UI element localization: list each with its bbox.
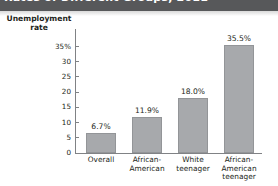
y-axis-title-line-2: rate xyxy=(6,23,72,32)
y-axis-title: Unemployment rate xyxy=(6,14,72,32)
y-axis-title-line-1: Unemployment xyxy=(6,14,72,23)
y-axis-tick-label-text: 20 xyxy=(44,88,71,95)
y-axis-tick-label-text: 10 xyxy=(44,119,71,126)
y-axis-tick xyxy=(75,76,79,77)
bar[interactable] xyxy=(86,133,116,153)
y-axis-tick-label-text: 15 xyxy=(44,103,71,110)
y-axis-tick-label: 15 xyxy=(44,103,71,111)
chart-title-text: Rates of Different Groups, 2011 xyxy=(4,0,208,4)
y-axis-tick-label: 0 xyxy=(44,149,71,157)
y-axis-tick-label: 10 xyxy=(44,119,71,127)
y-axis-tick-label: 25 xyxy=(44,73,71,81)
chart-title-banner: Rates of Different Groups, 2011 xyxy=(0,0,278,11)
bar-value-label: 18.0% xyxy=(164,88,222,96)
y-axis-tick-label-text: 5 xyxy=(44,134,71,141)
y-axis-tick-label: 20 xyxy=(44,88,71,96)
y-axis-tick xyxy=(75,107,79,108)
y-axis-tick-label-text: 0 xyxy=(44,149,71,156)
bar[interactable] xyxy=(178,98,208,153)
y-axis-tick-label-text: 35% xyxy=(44,43,71,50)
bar-chart-figure: Unemployment rate 05101520253035% 6.7%Ov… xyxy=(0,11,278,186)
y-axis-tick xyxy=(75,137,79,138)
y-axis-tick xyxy=(75,61,79,62)
bar[interactable] xyxy=(132,117,162,153)
y-axis-tick-label-text: 25 xyxy=(44,73,71,80)
y-axis-tick xyxy=(75,92,79,93)
bar[interactable] xyxy=(224,45,254,153)
bar-value-label: 35.5% xyxy=(210,35,268,43)
y-axis-tick-label: 5 xyxy=(44,134,71,142)
bar-value-label: 6.7% xyxy=(72,123,130,131)
y-axis-tick-label: 35% xyxy=(44,43,71,51)
y-axis-tick-label: 30 xyxy=(44,58,71,66)
x-axis-line xyxy=(75,153,262,154)
x-axis-category-label-line: teenager xyxy=(212,173,266,182)
y-axis-tick-label-text: 30 xyxy=(44,58,71,65)
y-axis-tick xyxy=(75,153,79,154)
bar-value-label: 11.9% xyxy=(118,107,176,115)
y-axis-tick xyxy=(75,46,79,47)
x-axis-category-label: African-Americanteenager xyxy=(212,156,266,182)
